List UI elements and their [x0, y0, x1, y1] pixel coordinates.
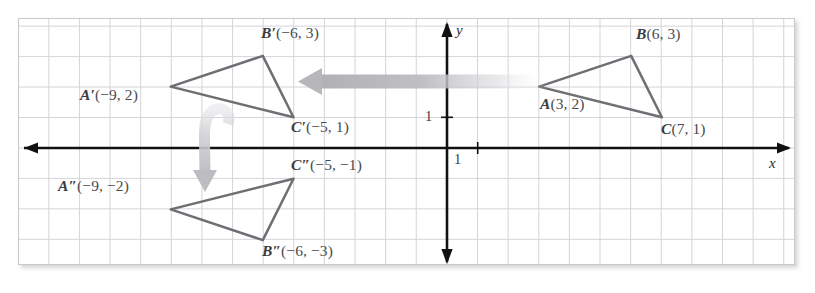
x-axis-label: x [769, 155, 776, 172]
y-axis-tick-label: 1 [425, 108, 432, 125]
label-point-b-dprime: B″(−6, −3) [262, 242, 333, 260]
label-point-b: B(6, 3) [636, 25, 681, 43]
label-point-b-prime: B′(−6, 3) [261, 24, 319, 42]
label-point-c-dprime: C″(−5, −1) [291, 156, 362, 174]
label-point-c-prime: C′(−5, 1) [291, 118, 349, 136]
figure-canvas: A(3, 2) B(6, 3) C(7, 1) A′(−9, 2) B′(−6,… [0, 0, 815, 293]
label-point-a-prime: A′(−9, 2) [80, 86, 138, 104]
label-point-c: C(7, 1) [661, 120, 706, 138]
y-axis-label: y [456, 22, 463, 39]
label-point-a-dprime: A″(−9, −2) [58, 177, 129, 195]
graph-frame [18, 18, 795, 265]
label-point-a: A(3, 2) [540, 95, 585, 113]
grid-lines [19, 19, 794, 264]
x-axis-tick-label: 1 [454, 151, 461, 168]
